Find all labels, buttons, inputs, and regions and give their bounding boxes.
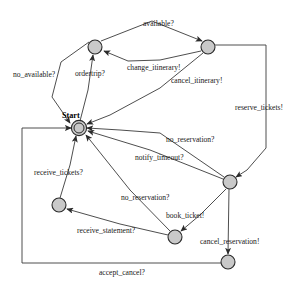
edge-label-cancel-reservation: cancel_reservation!	[200, 237, 259, 246]
state-node-top-left[interactable]	[88, 40, 102, 54]
edge-change-itinerary	[104, 51, 201, 61]
state-machine-canvas: Start available? no_available? ordertrip…	[0, 0, 304, 287]
state-node-start-inner-ring	[74, 123, 84, 133]
state-node-bottom-mid[interactable]	[168, 230, 182, 244]
state-node-left-low[interactable]	[52, 198, 66, 212]
edge-label-reserve-tickets: reserve_tickets!	[235, 103, 283, 112]
edge-label-no-reservation-upper: no_reservation?	[166, 135, 215, 144]
edge-label-no-reservation-lower: no_reservation?	[121, 193, 170, 202]
start-state-label: Start	[62, 111, 80, 120]
state-machine-diagram: Start available? no_available? ordertrip…	[0, 0, 304, 287]
edge-ordertrip	[80, 55, 93, 121]
edge-label-notify-timeout: notify_timeout?	[135, 153, 184, 162]
edge-label-book-ticket: book_ticket!	[166, 211, 204, 220]
edge-label-accept-cancel: accept_cancel?	[99, 268, 146, 277]
edge-label-available: available?	[143, 19, 174, 28]
labels-layer: Start available? no_available? ordertrip…	[13, 19, 283, 277]
edge-label-receive-statement: receive_statement?	[77, 226, 136, 235]
state-node-mid-right[interactable]	[223, 175, 237, 189]
edge-no-reservation-lower	[86, 135, 170, 231]
edges-layer	[22, 21, 266, 263]
state-node-top-right[interactable]	[201, 40, 215, 54]
edge-label-cancel-itinerary: cancel_itinerary!	[171, 76, 222, 85]
edge-label-receive-tickets: receive_tickets?	[34, 168, 84, 177]
edge-label-ordertrip: ordertrip?	[75, 69, 106, 78]
edge-label-change-itinerary: change_itinerary!	[127, 63, 181, 72]
edge-book-ticket	[181, 189, 226, 231]
edge-receive-tickets	[60, 136, 76, 198]
edge-label-no-available: no_available?	[13, 70, 56, 79]
state-node-bottom-right[interactable]	[221, 255, 235, 269]
